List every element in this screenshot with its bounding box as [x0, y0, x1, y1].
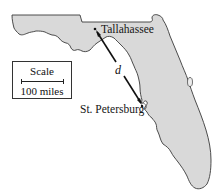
tallahassee-marker: [94, 28, 97, 31]
distance-line-segment-2: [124, 76, 141, 103]
florida-landmass: [12, 15, 211, 189]
distance-label: d: [115, 63, 121, 78]
scale-legend: Scale 100 miles: [12, 61, 72, 99]
city-label-st-petersburg: St. Petersburg: [80, 103, 144, 115]
scale-value: 100 miles: [13, 85, 71, 97]
lake-okeechobee: [188, 78, 193, 87]
scale-title: Scale: [13, 65, 71, 77]
city-label-tallahassee: Tallahassee: [101, 23, 154, 35]
scale-bar: [21, 81, 64, 82]
